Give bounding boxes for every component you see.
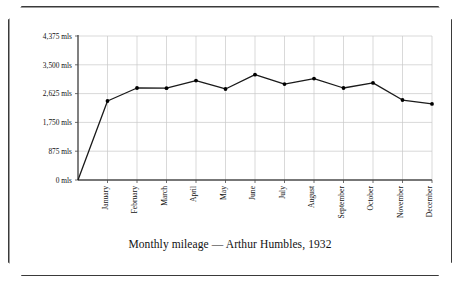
x-axis-tick-label: June [248, 185, 257, 200]
y-axis-tick-label: 875 mls [48, 147, 72, 156]
data-point-marker[interactable] [283, 82, 287, 86]
y-axis-tick-label: 4,375 mls [43, 32, 72, 41]
x-axis-tick-label: November [396, 186, 405, 219]
x-axis-tick-label: May [219, 186, 228, 200]
data-point-marker[interactable] [312, 77, 316, 81]
x-axis-tick-label: September [337, 186, 346, 219]
data-point-marker[interactable] [165, 86, 169, 90]
chart-page: 0 mls875 mls1,750 mls2,625 mls3,500 mls4… [0, 0, 460, 282]
data-point-marker[interactable] [342, 86, 346, 90]
x-axis-tick-label: July [278, 186, 287, 199]
x-axis-tick-label: August [307, 185, 316, 208]
x-axis-tick-label: February [130, 186, 139, 214]
data-point-marker[interactable] [430, 102, 434, 106]
data-point-marker[interactable] [106, 99, 110, 103]
x-axis-tick-label: December [425, 186, 434, 218]
data-point-marker[interactable] [401, 98, 405, 102]
x-axis-tick-label: April [189, 186, 198, 202]
x-axis-tick-label: March [160, 186, 169, 206]
y-axis-tick-label: 1,750 mls [43, 118, 72, 127]
x-axis-tick-label: January [101, 186, 110, 210]
y-axis-tick-label: 0 mls [56, 176, 72, 185]
data-point-marker[interactable] [371, 81, 375, 85]
chart-caption: Monthly mileage — Arthur Humbles, 1932 [0, 238, 460, 250]
data-point-marker[interactable] [224, 87, 228, 91]
data-point-marker[interactable] [194, 79, 198, 83]
data-point-marker[interactable] [253, 73, 257, 77]
data-point-marker[interactable] [135, 86, 139, 90]
y-axis-tick-label: 2,625 mls [43, 89, 72, 98]
y-axis-tick-label: 3,500 mls [43, 61, 72, 70]
x-axis-tick-label: October [366, 186, 375, 211]
